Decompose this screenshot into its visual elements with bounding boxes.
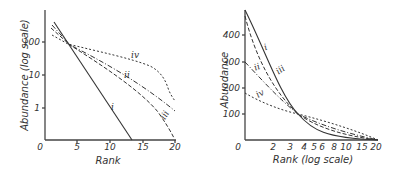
right-curve-label-iv: iv: [254, 87, 266, 100]
left-curve-iv: [52, 35, 175, 101]
right-curve-i: [245, 10, 378, 140]
figure: 100 10 1 0 5 10 15 20 Rank Abundance (lo…: [0, 0, 403, 172]
right-xtick-label: 4: [301, 142, 307, 152]
left-curve-label-iv: iv: [131, 50, 139, 60]
left-xtick-label: 5: [74, 142, 80, 152]
left-curve-ii: [52, 25, 175, 111]
left-curve-label-i: i: [111, 102, 114, 112]
right-xtick-label: 20: [370, 142, 382, 152]
right-ytick-label: 100: [223, 109, 240, 119]
left-y-axis-title: Abundance (log scale): [19, 19, 30, 132]
left-origin-label: 0: [37, 142, 43, 152]
right-xtick-label: 15: [356, 142, 368, 152]
right-xtick-label: 6: [319, 142, 325, 152]
left-xtick-label: 15: [137, 142, 149, 152]
left-curve-iii: [51, 28, 174, 138]
right-xtick-label: 8: [331, 142, 337, 152]
left-ytick-label: 10: [29, 70, 41, 80]
left-chart: 100 10 1 0 5 10 15 20 Rank Abundance (lo…: [19, 10, 181, 166]
right-chart: 400 300 200 100 0 2 3 4 5 6 8 10 15 20 R…: [219, 10, 382, 165]
right-xtick-label: 10: [340, 142, 352, 152]
right-curve-ii: [245, 62, 378, 140]
right-origin-label: 0: [235, 142, 241, 152]
right-curve-iii: [245, 16, 378, 140]
right-xtick-label: 3: [287, 142, 293, 152]
right-ytick-label: 400: [223, 30, 240, 40]
right-xtick-label: 5: [311, 142, 317, 152]
left-xtick-label: 20: [169, 142, 181, 152]
right-y-axis-title: Abundance: [219, 52, 230, 109]
right-curve-label-iii: iii: [274, 63, 287, 76]
left-curve-label-iii: iii: [158, 109, 171, 122]
right-x-axis-title: Rank (log scale): [273, 154, 353, 165]
right-curve-iv: [245, 93, 378, 140]
left-x-axis-title: Rank: [95, 155, 121, 166]
left-curve-label-ii: ii: [124, 70, 130, 80]
left-ytick-label: 1: [34, 103, 40, 113]
left-xtick-label: 10: [104, 142, 116, 152]
right-xtick-label: 2: [270, 142, 276, 152]
